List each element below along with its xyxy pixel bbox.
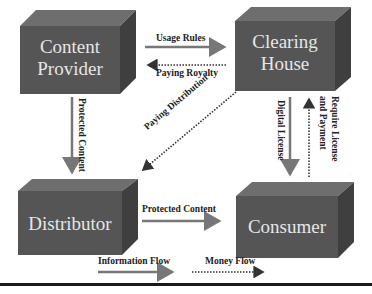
protected-content-horizontal-label: Protected Content bbox=[142, 204, 216, 214]
legend-money-flow-label: Money Flow bbox=[205, 256, 255, 266]
legend-information-flow-label: Information Flow bbox=[98, 256, 170, 266]
digital-license-label: Digital License bbox=[276, 100, 286, 160]
paying-royalty-label: Paying Royalty bbox=[156, 68, 218, 78]
flow-arrows bbox=[0, 0, 372, 294]
require-license-label-line2: and Payment bbox=[318, 96, 328, 150]
bottom-divider bbox=[0, 283, 372, 286]
usage-rules-label: Usage Rules bbox=[156, 33, 205, 43]
paying-distribution-arrow bbox=[143, 92, 236, 170]
protected-content-vertical-label: Protected Content bbox=[77, 98, 87, 172]
require-license-label-line1: Require License bbox=[330, 96, 340, 162]
